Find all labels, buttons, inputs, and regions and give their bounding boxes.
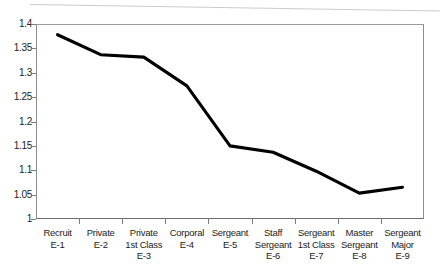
x-category-label: MasterSergeantE-8	[338, 227, 381, 262]
x-category-label-line: 1st Class	[295, 239, 338, 251]
x-category-label-line: Corporal	[165, 227, 208, 239]
x-category-label-line: 1st Class	[122, 239, 165, 251]
line-chart: 1.41.351.31.251.21.151.11.051 RecruitE-1…	[0, 0, 440, 275]
y-tick-label: 1.15	[0, 141, 32, 151]
x-category-label: Private1st ClassE-3	[122, 227, 165, 262]
x-category-label-line: Sergeant	[208, 227, 251, 239]
x-category-label: SergeantE-5	[208, 227, 251, 250]
plot-area	[36, 24, 424, 219]
x-category-label: CorporalE-4	[165, 227, 208, 250]
x-category-label-line: Major	[381, 239, 424, 251]
y-tick-label: 1.3	[0, 68, 32, 78]
x-category-label-line: Sergeant	[295, 227, 338, 239]
x-category-label: StaffSergeantE-6	[252, 227, 295, 262]
x-category-label-line: E-6	[252, 250, 295, 262]
x-tick-mark	[122, 219, 123, 224]
x-category-label-line: Staff	[252, 227, 295, 239]
y-tick-label: 1.25	[0, 92, 32, 102]
y-tick-label: 1.4	[0, 19, 32, 29]
y-tick-mark	[31, 219, 36, 220]
scan-artifact-line	[30, 4, 440, 11]
x-tick-mark	[208, 219, 209, 224]
y-axis: 1.41.351.31.251.21.151.11.051	[0, 24, 32, 219]
x-category-label-line: E-7	[295, 250, 338, 262]
x-category-label-line: Sergeant	[338, 239, 381, 251]
x-category-label-line: Master	[338, 227, 381, 239]
x-category-label: SergeantMajorE-9	[381, 227, 424, 262]
x-tick-mark	[295, 219, 296, 224]
x-axis: RecruitE-1PrivateE-2Private1st ClassE-3C…	[36, 227, 424, 273]
x-category-label-line: Private	[122, 227, 165, 239]
x-tick-mark	[79, 219, 80, 224]
x-category-label-line: E-3	[122, 250, 165, 262]
y-tick-label: 1.2	[0, 117, 32, 127]
x-category-label-line: E-9	[381, 250, 424, 262]
y-tick-label: 1.1	[0, 165, 32, 175]
x-category-label-line: Sergeant	[381, 227, 424, 239]
x-category-label-line: E-4	[165, 239, 208, 251]
x-tick-mark	[381, 219, 382, 224]
x-category-label-line: Sergeant	[252, 239, 295, 251]
x-category-label-line: E-1	[36, 239, 79, 251]
x-category-label: PrivateE-2	[79, 227, 122, 250]
x-category-label-line: E-5	[208, 239, 251, 251]
x-tick-mark	[165, 219, 166, 224]
y-tick-label: 1	[0, 214, 32, 224]
x-tick-mark	[252, 219, 253, 224]
x-tick-mark	[338, 219, 339, 224]
x-category-label-line: E-2	[79, 239, 122, 251]
x-category-label-line: Private	[79, 227, 122, 239]
y-tick-label: 1.35	[0, 43, 32, 53]
x-category-label: Sergeant1st ClassE-7	[295, 227, 338, 262]
x-category-label-line: E-8	[338, 250, 381, 262]
x-category-label: RecruitE-1	[36, 227, 79, 250]
x-category-label-line: Recruit	[36, 227, 79, 239]
y-tick-label: 1.05	[0, 190, 32, 200]
